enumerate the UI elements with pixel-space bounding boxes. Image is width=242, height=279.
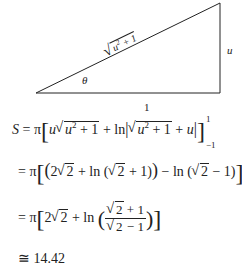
lower-limit: −1	[206, 140, 216, 150]
opposite-side-label: u	[227, 44, 233, 56]
adjacent-side-label: 1	[144, 101, 150, 113]
variable-s: S	[12, 122, 19, 137]
equation-line-2: = π[(22 + ln (2 + 1)) − ln (2 − 1)]	[18, 160, 242, 181]
equation-line-4: ≅ 14.42	[18, 250, 65, 267]
angle-label: θ	[82, 74, 87, 86]
equation-line-1: S = π[uu2 + 1 + ln|u2 + 1 + u|]1−1	[12, 118, 217, 144]
equation-line-3: = π[22 + ln (2 + 12 − 1)]	[18, 202, 161, 235]
right-triangle-diagram	[0, 0, 242, 115]
upper-limit: 1	[206, 114, 211, 124]
